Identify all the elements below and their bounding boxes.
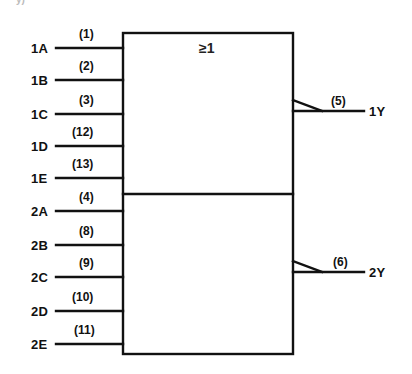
input-label-1D: 1D — [31, 140, 48, 153]
pin-number-2D: (10) — [72, 291, 93, 303]
input-label-1E: 1E — [31, 172, 48, 185]
negation-indicator-icon-2Y — [293, 261, 322, 272]
pin-number-2E: (11) — [74, 324, 95, 336]
diagram-lines — [0, 0, 412, 374]
pin-number-1C: (3) — [79, 94, 94, 106]
pin-number-1A: (1) — [79, 28, 94, 40]
input-label-1C: 1C — [31, 108, 48, 121]
input-label-2A: 2A — [31, 205, 48, 218]
output-label-2Y: 2Y — [369, 266, 386, 279]
pin-number-2A: (4) — [79, 191, 94, 203]
pin-number-1E: (13) — [72, 158, 93, 170]
input-label-2B: 2B — [31, 239, 48, 252]
gate-qualifier-symbol: ≥1 — [199, 41, 214, 55]
input-label-1B: 1B — [31, 74, 48, 87]
input-label-2C: 2C — [31, 271, 48, 284]
pin-number-1Y: (5) — [331, 95, 346, 107]
output-label-1Y: 1Y — [369, 105, 386, 118]
pin-number-2Y: (6) — [333, 256, 348, 268]
pin-number-2C: (9) — [79, 257, 94, 269]
logic-diagram: y) ≥1 1A (1 — [0, 0, 412, 374]
pin-number-2B: (8) — [79, 225, 94, 237]
pin-number-1B: (2) — [79, 60, 94, 72]
input-label-2D: 2D — [31, 305, 48, 318]
negation-indicator-icon-1Y — [293, 100, 322, 111]
pin-number-1D: (12) — [72, 126, 93, 138]
input-label-1A: 1A — [31, 42, 48, 55]
input-label-2E: 2E — [31, 338, 48, 351]
